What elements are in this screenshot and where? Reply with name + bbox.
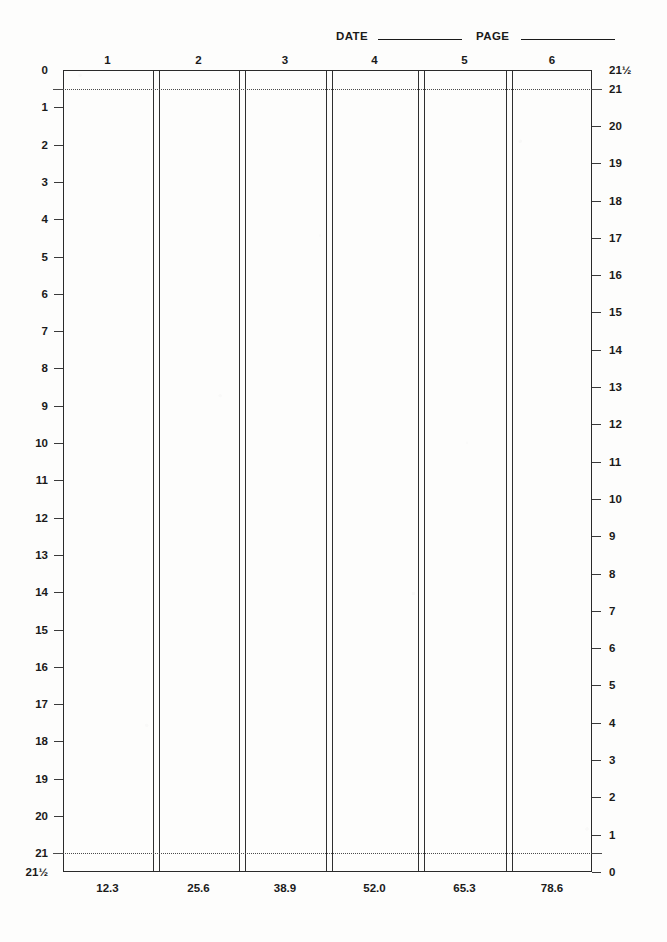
left-tick-1 [54,107,63,108]
right-axis-label-7: 7 [609,605,615,617]
left-axis-label-0: 0 [42,64,48,76]
guide-tail-right-bottom [592,853,602,854]
right-axis-label-9: 9 [609,530,615,542]
column-header-1: 1 [104,54,110,66]
column-header-2: 2 [195,54,201,66]
column-divider-3 [326,71,333,871]
left-tick-14 [54,592,63,593]
guide-line-bottom [63,853,592,854]
left-axis-label-11: 11 [36,474,48,486]
right-tick-15 [592,312,601,313]
left-tick-2 [54,145,63,146]
left-axis-label-8: 8 [42,362,48,374]
scale-value-5: 65.3 [453,882,475,894]
right-axis-label-19: 19 [609,157,622,169]
right-axis-label-21: 21 [609,83,622,95]
column-header-4: 4 [371,54,377,66]
right-tick-7 [592,611,601,612]
left-axis-label-4: 4 [42,213,48,225]
right-axis-label-15: 15 [609,306,622,318]
right-axis-label-5: 5 [609,679,615,691]
right-tick-4 [592,723,601,724]
left-axis-label-21: 21 [35,847,48,859]
right-tick-14 [592,350,601,351]
left-tick-16 [54,667,63,668]
left-axis-label-6: 6 [42,288,48,300]
left-tick-15 [54,630,63,631]
left-axis-label-17: 17 [35,698,48,710]
guide-tail-right-top [592,89,602,90]
right-tick-11 [592,462,601,463]
left-tick-19 [54,779,63,780]
guide-line-top [63,89,592,90]
left-tick-18 [54,741,63,742]
right-tick-0 [592,872,601,873]
page-label: PAGE [476,30,509,42]
column-divider-1 [153,71,160,871]
left-axis-label-2: 2 [42,139,48,151]
right-tick-5 [592,685,601,686]
right-tick-18 [592,201,601,202]
scale-value-6: 78.6 [541,882,563,894]
left-axis-label-1: 1 [42,101,48,113]
right-tick-1 [592,835,601,836]
left-axis-label-19: 19 [35,773,48,785]
column-divider-5 [506,71,513,871]
right-axis-label-0: 0 [609,866,615,878]
right-tick-19 [592,163,601,164]
left-tick-11 [54,480,63,481]
worksheet-page: DATE PAGE 123456 01234567891011121314151… [0,0,667,942]
date-input[interactable] [378,28,462,40]
left-axis-label-15: 15 [35,624,48,636]
left-axis-label-end: 21½ [26,866,48,878]
right-tick-17 [592,238,601,239]
right-tick-2 [592,797,601,798]
right-tick-3 [592,760,601,761]
right-axis-label-20: 20 [609,120,622,132]
left-tick-9 [54,406,63,407]
left-tick-3 [54,182,63,183]
right-tick-10 [592,499,601,500]
column-header-3: 3 [282,54,288,66]
column-divider-2 [239,71,246,871]
scale-value-1: 12.3 [96,882,118,894]
left-axis-label-13: 13 [35,549,48,561]
left-tick-7 [54,331,63,332]
right-axis-label-10: 10 [609,493,622,505]
right-axis-label-1: 1 [609,829,615,841]
guide-tail-left-top [53,89,63,90]
scale-value-2: 25.6 [187,882,209,894]
left-axis-label-16: 16 [35,661,48,673]
right-tick-12 [592,424,601,425]
left-axis-label-20: 20 [35,810,48,822]
left-tick-20 [54,816,63,817]
right-axis-label-18: 18 [609,195,622,207]
right-axis-label-2: 2 [609,791,615,803]
left-tick-5 [54,257,63,258]
left-axis-label-3: 3 [42,176,48,188]
right-axis-label-12: 12 [609,418,622,430]
page-input[interactable] [521,28,615,40]
right-axis-label-6: 6 [609,642,615,654]
left-tick-4 [54,219,63,220]
left-axis-label-18: 18 [35,735,48,747]
form-header: DATE PAGE [336,28,615,44]
left-axis-label-7: 7 [42,325,48,337]
left-tick-17 [54,704,63,705]
left-axis-label-9: 9 [42,400,48,412]
right-tick-16 [592,275,601,276]
left-tick-10 [54,443,63,444]
column-divider-4 [418,71,425,871]
right-axis-label-8: 8 [609,568,615,580]
left-tick-6 [54,294,63,295]
right-tick-20 [592,126,601,127]
right-axis-label-3: 3 [609,754,615,766]
right-tick-8 [592,574,601,575]
right-axis-label-start: 21½ [609,64,631,76]
left-tick-13 [54,555,63,556]
scale-value-4: 52.0 [363,882,385,894]
left-axis-label-5: 5 [42,251,48,263]
right-axis-label-16: 16 [609,269,622,281]
scale-value-3: 38.9 [274,882,296,894]
column-header-6: 6 [549,54,555,66]
